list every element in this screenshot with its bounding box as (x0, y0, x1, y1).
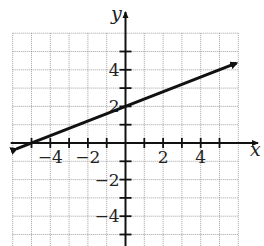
axes (11, 12, 258, 246)
y-tick-label: −4 (94, 206, 119, 226)
x-tick-label: 4 (195, 147, 206, 167)
y-tick-label: −2 (94, 170, 119, 190)
x-tick-label: −2 (75, 147, 100, 167)
x-axis-label: x (250, 138, 261, 160)
coordinate-plane: −4−22442−2−4 x y (0, 0, 264, 246)
y-axis-label: y (110, 2, 122, 24)
x-tick-label: 2 (158, 147, 169, 167)
y-tick-label: 4 (109, 60, 120, 80)
x-tick-label: −4 (38, 147, 63, 167)
